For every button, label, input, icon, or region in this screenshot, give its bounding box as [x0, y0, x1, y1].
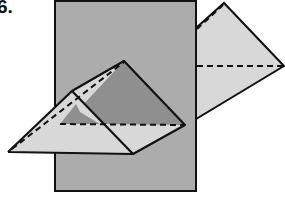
prism-plane-diagram — [0, 0, 285, 201]
prism-back-face — [196, 3, 284, 119]
